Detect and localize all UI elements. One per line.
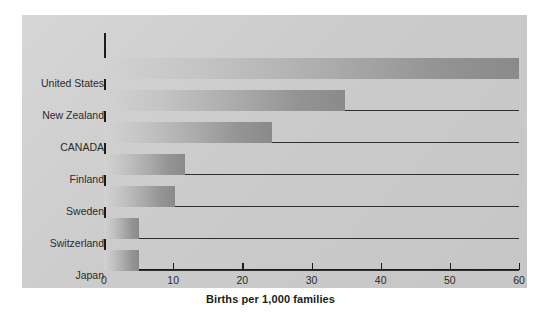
x-tick-10 bbox=[173, 263, 174, 270]
x-tick-label-40: 40 bbox=[375, 274, 387, 286]
leader-line-new-zealand bbox=[345, 110, 519, 111]
category-axis-labels: United States New Zealand CANADA Finland… bbox=[22, 15, 104, 288]
leader-line-sweden bbox=[175, 206, 519, 207]
x-tick-label-50: 50 bbox=[444, 274, 456, 286]
bar-sweden bbox=[104, 186, 175, 207]
x-tick-50 bbox=[450, 263, 451, 270]
category-label-new-zealand: New Zealand bbox=[4, 110, 104, 121]
leader-line-canada bbox=[272, 142, 519, 143]
x-tick-60 bbox=[519, 263, 520, 270]
category-label-japan: Japan bbox=[4, 270, 104, 281]
chart-figure: United States New Zealand CANADA Finland… bbox=[0, 0, 541, 319]
bar-switzerland bbox=[104, 218, 139, 239]
plot-panel: United States New Zealand CANADA Finland… bbox=[22, 15, 527, 288]
category-label-switzerland: Switzerland bbox=[4, 238, 104, 249]
x-tick-label-10: 10 bbox=[167, 274, 179, 286]
x-tick-20 bbox=[242, 263, 243, 270]
x-tick-label-60: 60 bbox=[513, 274, 525, 286]
category-label-canada: CANADA bbox=[4, 142, 104, 153]
bar-canada bbox=[104, 122, 272, 143]
leader-line-finland bbox=[185, 174, 519, 175]
x-tick-label-0: 0 bbox=[101, 274, 107, 286]
x-tick-label-20: 20 bbox=[236, 274, 248, 286]
leader-line-switzerland bbox=[139, 238, 519, 239]
x-tick-label-30: 30 bbox=[306, 274, 318, 286]
bar-new-zealand bbox=[104, 90, 345, 111]
x-tick-40 bbox=[381, 263, 382, 270]
bar-finland bbox=[104, 154, 185, 175]
x-tick-30 bbox=[312, 263, 313, 270]
category-label-sweden: Sweden bbox=[4, 206, 104, 217]
category-label-finland: Finland bbox=[4, 174, 104, 185]
bar-japan bbox=[104, 250, 139, 271]
leader-line-japan bbox=[139, 270, 519, 271]
category-label-united-states: United States bbox=[4, 78, 104, 89]
x-axis-title: Births per 1,000 families bbox=[0, 293, 541, 305]
bar-united-states bbox=[104, 58, 519, 79]
